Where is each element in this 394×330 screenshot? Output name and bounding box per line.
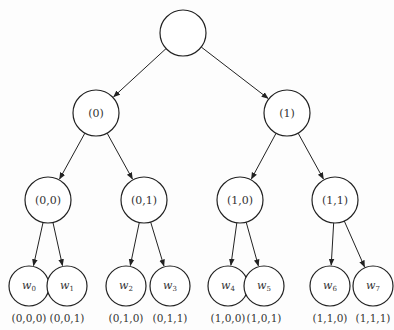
tree-edge-arrow [298, 133, 323, 179]
tree-edge-arrow [107, 133, 132, 179]
tree-node: (0,0) [25, 177, 71, 223]
leaf-code-label: (1,0,0) [211, 312, 246, 324]
tree-edge-arrow [246, 222, 258, 266]
tree-edge-arrow [201, 47, 268, 98]
leaf-code-label: (0,0,0) [12, 312, 47, 324]
node-label: (1,0) [227, 194, 253, 207]
leaf-node: w5(1,0,1) [244, 266, 284, 324]
root-node [160, 10, 206, 56]
tree-canvas: (0)(1)(0,0)(0,1)(1,0)(1,1)w0(0,0,0)w1(0,… [0, 0, 394, 330]
leaf-node: w4(1,0,0) [208, 266, 248, 324]
leaf-node: w1(0,0,1) [47, 266, 87, 324]
tree-edge-arrow [231, 223, 237, 265]
tree-edge-arrow [34, 222, 44, 265]
leaf-code-label: (1,1,0) [313, 312, 348, 324]
node-label: (1,1) [322, 194, 348, 207]
leaf-code-label: (1,1,1) [356, 312, 391, 324]
tree-node: (0,1) [121, 177, 167, 223]
edges [34, 47, 365, 267]
tree-node: (1) [264, 90, 310, 136]
leaf-code-label: (0,0,1) [50, 312, 85, 324]
tree-edge-arrow [60, 133, 85, 179]
tree-node: (0) [73, 90, 119, 136]
leaf-code-label: (0,1,0) [109, 312, 144, 324]
tree-edge-arrow [114, 49, 166, 97]
node-label: (0) [88, 107, 104, 120]
tree-edge-arrow [331, 223, 333, 265]
node-label: (0,0) [35, 194, 61, 207]
leaf-node: w2(0,1,0) [106, 266, 146, 324]
leaf-code-label: (1,0,1) [247, 312, 282, 324]
leaf-code-label: (0,1,1) [153, 312, 188, 324]
leaf-node: w0(0,0,0) [9, 266, 49, 324]
tree-node: (1,0) [217, 177, 263, 223]
tree-edge-arrow [344, 221, 364, 267]
leaf-node: w7(1,1,1) [353, 266, 393, 324]
tree-edge-arrow [53, 222, 63, 265]
tree-edge-arrow [251, 133, 276, 179]
tree-node: (1,1) [312, 177, 358, 223]
node-label: (0,1) [131, 194, 157, 207]
node-label: (1) [279, 107, 295, 120]
leaf-node: w3(0,1,1) [150, 266, 190, 324]
node-circle [160, 10, 206, 56]
tree-edge-arrow [151, 222, 164, 266]
tree-edge-arrow [130, 223, 139, 266]
tree-diagram: (0)(1)(0,0)(0,1)(1,0)(1,1)w0(0,0,0)w1(0,… [0, 0, 394, 330]
leaf-node: w6(1,1,0) [310, 266, 350, 324]
